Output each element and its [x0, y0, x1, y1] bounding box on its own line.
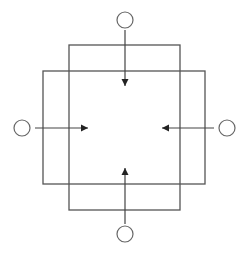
arrowhead-up-icon	[122, 168, 129, 175]
arrowhead-left-icon	[162, 125, 169, 132]
top-node-circle	[117, 12, 133, 28]
bottom-node-circle	[117, 226, 133, 242]
arrowhead-down-icon	[122, 79, 129, 86]
inward-flow-diagram	[0, 0, 245, 257]
right-node-circle	[219, 120, 235, 136]
arrowhead-right-icon	[81, 125, 88, 132]
left-node-circle	[14, 120, 30, 136]
